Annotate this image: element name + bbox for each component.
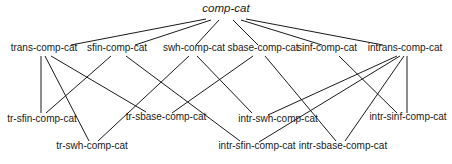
node-tr-sfin-comp-cat: tr-sfin-comp-cat (7, 113, 77, 124)
edge-sinf-comp-cat-to-intr-sinf-comp-cat (339, 56, 397, 113)
edge-intrans-comp-cat-to-intr-sbase-comp-cat (345, 56, 404, 141)
node-swh-comp-cat: swh-comp-cat (163, 42, 225, 53)
edge-sbase-comp-cat-to-tr-sbase-comp-cat (172, 56, 253, 113)
node-intr-sfin-comp-cat: intr-sfin-comp-cat (218, 140, 295, 151)
node-trans-comp-cat: trans-comp-cat (11, 42, 78, 53)
edge-intrans-comp-cat-to-intr-swh-comp-cat (268, 56, 397, 115)
edge-swh-comp-cat-to-intr-swh-comp-cat (197, 56, 252, 113)
node-sfin-comp-cat: sfin-comp-cat (87, 42, 147, 53)
node-intrans-comp-cat: intrans-comp-cat (368, 42, 443, 53)
nodes-group: comp-cattrans-comp-catsfin-comp-catswh-c… (7, 2, 447, 151)
node-intr-sbase-comp-cat: intr-sbase-comp-cat (299, 140, 388, 151)
edge-intrans-comp-cat-to-intr-sfin-comp-cat (259, 56, 400, 142)
edge-sfin-comp-cat-to-tr-sfin-comp-cat (46, 56, 111, 113)
node-intr-swh-comp-cat: intr-swh-comp-cat (238, 113, 318, 124)
node-comp-cat: comp-cat (202, 2, 250, 14)
node-sinf-comp-cat: sinf-comp-cat (297, 42, 357, 53)
edge-trans-comp-cat-to-tr-sbase-comp-cat (51, 56, 146, 112)
edges-group (41, 19, 407, 142)
edge-trans-comp-cat-to-tr-swh-comp-cat (45, 56, 89, 141)
node-tr-swh-comp-cat: tr-swh-comp-cat (56, 140, 128, 151)
node-intr-sinf-comp-cat: intr-sinf-comp-cat (369, 111, 446, 122)
node-sbase-comp-cat: sbase-comp-cat (227, 42, 298, 53)
edge-sbase-comp-cat-to-intr-sbase-comp-cat (265, 56, 336, 141)
node-tr-sbase-comp-cat: tr-sbase-comp-cat (126, 111, 207, 122)
category-hierarchy-diagram: comp-cattrans-comp-catsfin-comp-catswh-c… (0, 0, 452, 164)
